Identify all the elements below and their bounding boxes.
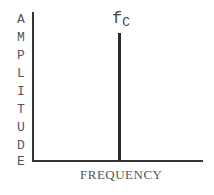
y-letter: T [14,103,28,116]
y-letter: E [14,155,28,168]
y-letter: M [14,31,28,44]
y-letter: U [14,121,28,134]
carrier-spike [118,33,121,161]
y-letter: L [14,67,28,80]
x-axis-label: FREQUENCY [80,167,163,183]
fc-subscript: C [122,15,130,30]
y-letter: I [14,85,28,98]
carrier-frequency-label: fC [112,9,130,30]
y-letter: D [14,139,28,152]
y-letter: P [14,49,28,62]
y-axis-line [32,12,34,162]
y-letter: A [14,13,28,26]
fc-main: f [112,9,122,28]
